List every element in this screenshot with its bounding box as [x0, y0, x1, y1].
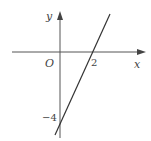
- y-axis-label: y: [45, 10, 53, 23]
- coordinate-graph: y x O 2 −4: [0, 0, 151, 141]
- x-intercept-label: 2: [91, 57, 97, 68]
- origin-label: O: [45, 57, 54, 70]
- x-axis-label: x: [134, 58, 141, 71]
- y-axis-arrow-icon: [57, 11, 63, 20]
- y-intercept-label: −4: [42, 112, 57, 123]
- graph-line: [55, 14, 110, 135]
- x-axis-arrow-icon: [137, 49, 146, 55]
